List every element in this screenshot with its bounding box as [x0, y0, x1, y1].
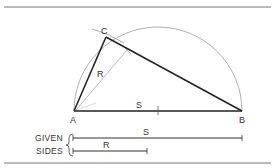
- label-point-c: C: [101, 26, 108, 36]
- triangle-construction-figure: C A B S R GIVEN SIDES S R: [0, 0, 274, 168]
- r-dimension-line: [76, 50, 127, 110]
- label-point-a: A: [70, 115, 76, 125]
- given-caption-line1: GIVEN: [35, 133, 63, 143]
- given-side-r-label: R: [103, 140, 110, 150]
- label-point-b: B: [239, 115, 245, 125]
- given-caption-line2: SIDES: [36, 146, 63, 156]
- label-side-s: S: [136, 100, 142, 110]
- side-cb: [106, 37, 242, 111]
- construction-arc-at-c: [92, 29, 124, 43]
- label-dimension-r: R: [97, 69, 104, 79]
- given-brace: [66, 134, 73, 156]
- given-side-s-label: S: [143, 127, 149, 137]
